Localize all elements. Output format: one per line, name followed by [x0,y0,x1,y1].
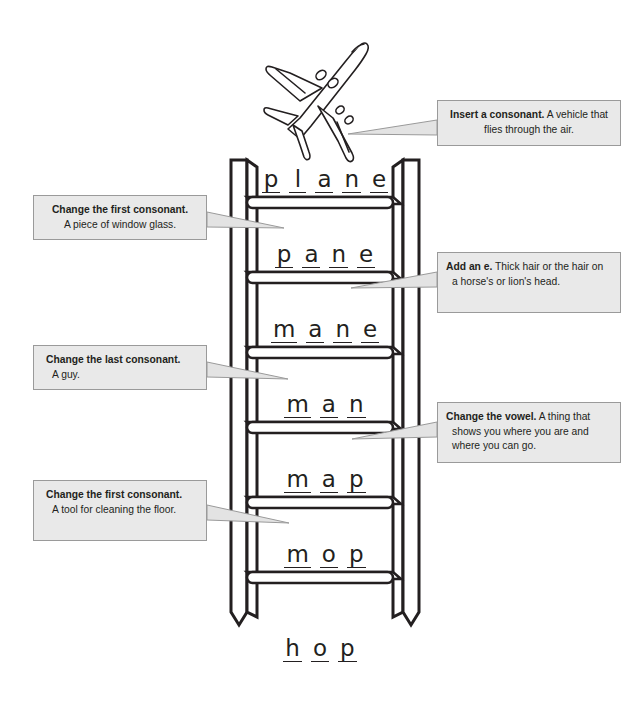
pointer-map [352,422,437,439]
ladder-word-mane: m a n e [225,318,425,343]
callout-body: A guy. [46,368,196,383]
letter: o [311,637,329,662]
pointer-pane [207,212,284,228]
ladder-word-man: m a n [225,393,425,418]
callout-lead: Change the first consonant. [44,203,196,218]
callout-body: A tool for cleaning the floor. [46,503,196,518]
airplane-icon [264,43,368,162]
letter: a [320,468,338,493]
callout-man: Change the last consonant. A guy. [33,345,207,390]
pointer-mane [351,272,437,288]
letter: m [284,543,310,568]
callout-lead: Change the vowel. [446,411,536,422]
letter: a [320,393,338,418]
letter: a [302,243,320,268]
letter: e [370,168,388,193]
letter: h [283,637,302,662]
ladder-word-pane: p a n e [225,243,425,268]
ladder-base-word-hop: h o p [220,637,420,662]
letter: p [338,637,357,662]
letter: a [306,318,324,343]
callout-map: Change the vowel. A thing that shows you… [437,402,621,463]
pointer-mop [207,505,289,523]
callout-pane: Change the first consonant. A piece of w… [33,195,207,240]
ladder-word-map: m a p [225,468,425,493]
pointer-man [207,362,288,379]
callout-lead: Change the first consonant. [46,488,196,503]
letter: p [347,468,366,493]
letter: o [320,543,338,568]
callout-mane: Add an e. Thick hair or the hair on a ho… [437,252,621,313]
callout-mop: Change the first consonant. A tool for c… [33,480,207,541]
letter: m [271,318,297,343]
letter: n [342,168,361,193]
callout-body: A piece of window glass. [44,218,196,233]
letter: l [289,168,306,193]
letter: n [329,243,348,268]
letter: n [333,318,352,343]
callout-lead: Change the last consonant. [46,353,196,368]
letter: p [347,543,366,568]
letter: p [262,168,281,193]
letter: m [284,393,310,418]
callout-lead: Insert a consonant. [450,109,544,120]
callout-plane: Insert a consonant. A vehicle that flies… [437,100,621,146]
ladder-word-plane: p l a n e [225,168,425,193]
letter: m [284,468,310,493]
worksheet-canvas: p l a n e p a n e m a n e m a n m a p m … [0,0,640,710]
pointer-plane [348,120,437,135]
letter: p [275,243,294,268]
letter: e [357,243,375,268]
letter: e [361,318,379,343]
ladder-word-mop: m o p [225,543,425,568]
letter: n [347,393,366,418]
callout-lead: Add an e. [446,261,492,272]
letter: a [315,168,333,193]
